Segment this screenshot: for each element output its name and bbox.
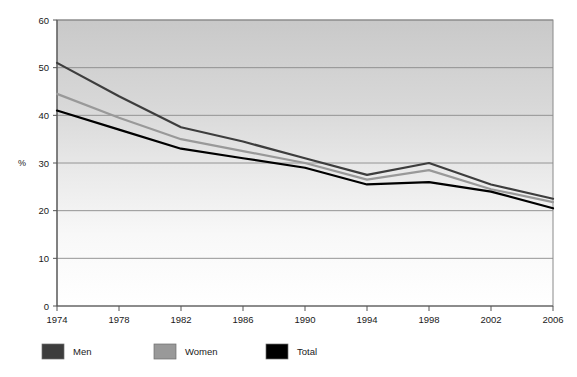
chart-legend: MenWomenTotal	[42, 344, 317, 359]
x-tick-label-1994: 1994	[356, 314, 377, 325]
x-tick-label-1974: 1974	[46, 314, 67, 325]
y-axis-ticks: 0102030405060	[38, 15, 57, 312]
legend-label-total: Total	[297, 346, 317, 357]
x-tick-label-1982: 1982	[170, 314, 191, 325]
y-axis-title: %	[18, 158, 26, 168]
x-tick-label-2002: 2002	[480, 314, 501, 325]
y-tick-label-10: 10	[38, 253, 49, 264]
legend-label-men: Men	[73, 346, 91, 357]
y-tick-label-60: 60	[38, 15, 49, 26]
legend-label-women: Women	[185, 346, 218, 357]
y-tick-label-20: 20	[38, 205, 49, 216]
y-tick-label-30: 30	[38, 158, 49, 169]
line-chart: 0102030405060 19741978198219861990199419…	[0, 0, 577, 377]
legend-swatch-men	[42, 344, 64, 359]
y-tick-label-0: 0	[44, 301, 49, 312]
x-tick-label-1990: 1990	[294, 314, 315, 325]
x-tick-label-2006: 2006	[542, 314, 563, 325]
x-tick-label-1978: 1978	[108, 314, 129, 325]
y-tick-label-40: 40	[38, 110, 49, 121]
x-tick-label-1986: 1986	[232, 314, 253, 325]
chart-container: 0102030405060 19741978198219861990199419…	[0, 0, 577, 377]
x-axis-ticks: 197419781982198619901994199820022006	[46, 306, 563, 325]
legend-swatch-women	[154, 344, 176, 359]
legend-swatch-total	[266, 344, 288, 359]
x-tick-label-1998: 1998	[418, 314, 439, 325]
y-tick-label-50: 50	[38, 62, 49, 73]
